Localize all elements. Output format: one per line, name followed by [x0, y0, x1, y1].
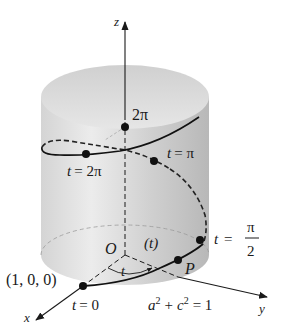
t-pi-label: t= π	[167, 145, 194, 161]
t-0-label: t= 0	[72, 297, 99, 313]
origin-label: O	[105, 240, 117, 257]
point-P-label: P	[184, 260, 195, 277]
svg-text:t: t	[214, 231, 219, 247]
svg-text:=: =	[224, 231, 232, 247]
x-axis-label: x	[23, 310, 30, 325]
z-axis-label: z	[113, 14, 119, 29]
svg-text:2: 2	[247, 243, 255, 259]
point-P	[174, 256, 182, 264]
point-t-0	[79, 282, 87, 290]
start-point-label: (1, 0, 0)	[6, 271, 57, 289]
helix-diagram: z x y 2π t= 2π t= π	[0, 0, 282, 331]
arc-param-label: (t)	[144, 235, 158, 252]
circle-equation: a2+c2= 1	[148, 295, 212, 313]
point-z-2pi	[121, 123, 129, 131]
z-2pi-label: 2π	[132, 106, 148, 123]
point-t-half-pi	[196, 236, 204, 244]
y-axis-label: y	[257, 301, 265, 316]
point-t-pi	[150, 157, 158, 165]
svg-text:π: π	[247, 219, 255, 235]
t-half-pi-label: t = π 2	[214, 219, 259, 259]
point-t-2pi	[82, 150, 90, 158]
